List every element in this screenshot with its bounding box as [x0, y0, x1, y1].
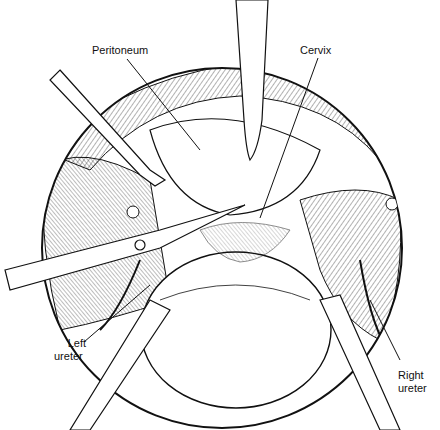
- illustration-canvas: [0, 0, 440, 430]
- label-left-ureter-line2: ureter: [54, 350, 83, 363]
- label-cervix: Cervix: [300, 44, 331, 57]
- label-left-ureter-line1: Left: [60, 337, 86, 350]
- label-peritoneum: Peritoneum: [92, 44, 148, 57]
- label-right-ureter-line2: ureter: [398, 382, 427, 395]
- label-right-ureter-line1: Right: [398, 369, 424, 382]
